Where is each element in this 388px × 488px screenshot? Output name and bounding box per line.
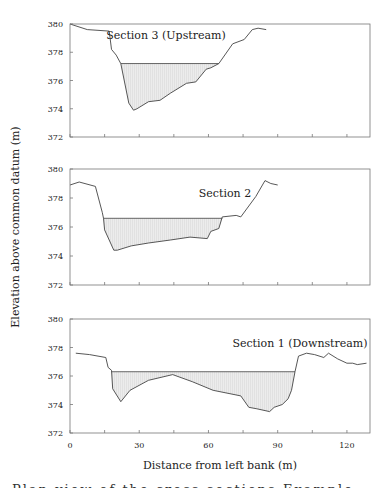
y-axis-title: Elevation above common datum (m)	[9, 126, 22, 327]
y-tick-label: 374	[48, 252, 63, 261]
section-title: Section 3 (Upstream)	[106, 29, 226, 42]
section-2-panel: 372374376378380Section 2	[48, 165, 370, 290]
y-tick-label: 378	[48, 194, 63, 203]
caption-text: Plan view of the cross-sections Example …	[0, 483, 388, 488]
y-tick-label: 378	[48, 48, 63, 57]
x-tick-label: 0	[67, 441, 72, 450]
y-tick-label: 374	[48, 401, 63, 410]
section-title: Section 2	[199, 187, 251, 200]
water-area	[121, 64, 219, 111]
x-axis-title: Distance from left bank (m)	[143, 459, 297, 472]
y-tick-label: 380	[48, 315, 63, 324]
y-tick-label: 380	[48, 165, 63, 174]
y-tick-label: 376	[48, 77, 63, 86]
y-tick-label: 380	[48, 20, 63, 29]
x-tick-label: 60	[203, 441, 213, 450]
caption-fragment: Plan view of the cross-sections Example …	[0, 482, 388, 488]
section-1-panel: 3723743763783800306090120Section 1 (Down…	[48, 315, 370, 450]
water-area	[112, 372, 295, 412]
y-tick-label: 372	[48, 281, 63, 290]
x-tick-label: 30	[134, 441, 144, 450]
cross-section-figure: 372374376378380Section 3 (Upstream)37237…	[0, 0, 388, 488]
y-tick-label: 372	[48, 133, 63, 142]
section-title: Section 1 (Downstream)	[232, 337, 367, 350]
y-tick-label: 376	[48, 372, 63, 381]
cross-section-chart: 372374376378380Section 3 (Upstream)37237…	[0, 0, 388, 488]
y-tick-label: 378	[48, 344, 63, 353]
water-area	[103, 218, 222, 250]
y-tick-label: 372	[48, 429, 63, 438]
y-tick-label: 374	[48, 105, 63, 114]
x-tick-label: 120	[339, 441, 354, 450]
section-3-panel: 372374376378380Section 3 (Upstream)	[48, 20, 370, 142]
x-tick-label: 90	[273, 441, 283, 450]
y-tick-label: 376	[48, 223, 63, 232]
